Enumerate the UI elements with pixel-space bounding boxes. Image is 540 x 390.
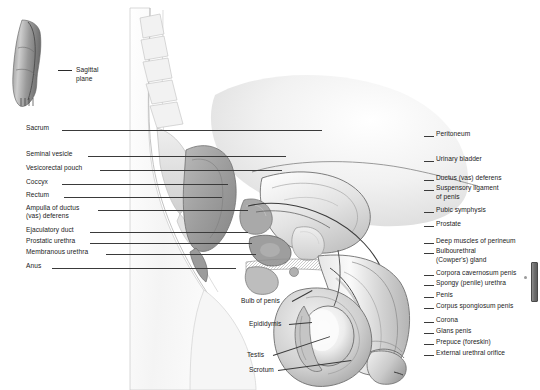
label-of-penis: of penis (436, 193, 460, 202)
leader-sacrum (62, 130, 322, 131)
sagittal-plane-label-line2: plane (76, 75, 92, 84)
label-spongy-penile-urethra: Spongy (penile) urethra (436, 279, 506, 288)
leader-corpora-cavernosum-penis (424, 275, 434, 276)
leader-rectum (64, 197, 222, 198)
label-suspensory-ligament: Suspensory ligament (436, 184, 499, 193)
leader-membranous-urethra (106, 254, 256, 255)
leader-ampulla-of-ductus (98, 210, 248, 211)
label-vesicorectal-pouch: Vesicorectal pouch (26, 164, 82, 173)
label-coccyx: Coccyx (26, 178, 48, 187)
label-corpora-cavernosum-penis: Corpora cavernosum penis (436, 269, 516, 278)
label-membranous-urethra: Membranous urethra (26, 248, 88, 257)
label-pubic-symphysis: Pubic symphysis (436, 206, 486, 215)
leader-prepuce-foreskin (424, 344, 434, 345)
leader-spongy-penile-urethra (424, 285, 434, 286)
leader-seminal-vesicle (88, 156, 286, 157)
leader-anus (52, 268, 236, 269)
label-corpus-spongiosum-penis: Corpus spongiosum penis (436, 302, 513, 311)
leader-vesicorectal-pouch (100, 170, 282, 171)
label-sacrum: Sacrum (26, 124, 49, 133)
leader-prostate (424, 226, 434, 227)
label-cowper-s-gland: (Cowper's) gland (436, 256, 486, 265)
leader-suspensory-ligament (424, 190, 434, 191)
label-peritoneum: Peritoneum (436, 130, 470, 139)
label-vas-deferens: (vas) deferens (26, 212, 69, 221)
label-glans-penis: Glans penis (436, 327, 471, 336)
leader-corona (424, 322, 434, 323)
label-external-urethral-orifice: External urethral orifice (436, 349, 505, 358)
leader-ductus-vas-deferens (424, 180, 434, 181)
label-deep-muscles-of-perineum: Deep muscles of perineum (436, 237, 516, 246)
label-seminal-vesicle: Seminal vesicle (26, 150, 73, 159)
label-ejaculatory-duct: Ejaculatory duct (26, 226, 74, 235)
label-anus: Anus (26, 262, 41, 271)
leader-corpus-spongiosum-penis (424, 308, 434, 309)
label-bulbourethral: Bulbourethral (436, 247, 476, 256)
sagittal-plane-leader (58, 70, 72, 71)
leader-coccyx (62, 184, 228, 185)
leader-glans-penis (424, 333, 434, 334)
label-epididymis: Epididymis (249, 320, 281, 329)
leader-bulbourethral (424, 253, 434, 254)
leader-peritoneum (424, 136, 434, 137)
sagittal-plane-inset (8, 18, 56, 110)
leader-external-urethral-orifice (424, 355, 434, 356)
leader-urinary-bladder (424, 161, 434, 162)
leader-penis (424, 297, 434, 298)
leader-pubic-symphysis (424, 212, 434, 213)
label-prostate: Prostate (436, 220, 461, 229)
label-rectum: Rectum (26, 191, 49, 200)
scrollbar-thumb[interactable] (531, 262, 538, 302)
leader-deep-muscles-of-perineum (424, 243, 434, 244)
label-testis: Testis (247, 351, 264, 360)
leader-ejaculatory-duct (90, 232, 248, 233)
label-scrotum: Scrotum (249, 366, 274, 375)
label-penis: Penis (436, 291, 453, 300)
label-urinary-bladder: Urinary bladder (436, 155, 482, 164)
sagittal-plane-label-line1: Sagittal (76, 66, 98, 75)
label-ductus-vas-deferens: Ductus (vas) deferens (436, 174, 502, 183)
label-prostatic-urethra: Prostatic urethra (26, 237, 75, 246)
label-prepuce-foreskin: Prepuce (foreskin) (436, 338, 491, 347)
leader-prostatic-urethra (90, 243, 252, 244)
label-bulb-of-penis: Bulb of penis (241, 297, 280, 306)
scroll-marker-dot (524, 276, 527, 279)
anatomy-figure: Sagittal plane SacrumSeminal vesicleVesi… (0, 0, 540, 390)
label-corona: Corona (436, 316, 458, 325)
